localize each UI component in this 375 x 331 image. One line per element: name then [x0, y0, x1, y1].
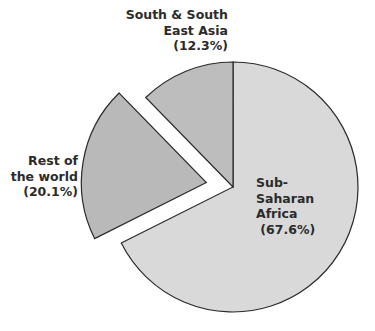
- label-line: Saharan: [256, 191, 314, 206]
- label-line: East Asia: [163, 23, 228, 38]
- pie-slices: [81, 62, 358, 312]
- label-line: Sub-: [256, 175, 288, 190]
- label-line: the world: [11, 169, 78, 184]
- label-line: Rest of: [28, 153, 78, 168]
- label-line: Africa: [256, 206, 297, 221]
- label-south-and-south-east-asia: South & SouthEast Asia(12.3%): [126, 7, 228, 53]
- label-line: South & South: [126, 7, 228, 22]
- label-rest-of-the-world: Rest ofthe world(20.1%): [11, 153, 79, 199]
- pie-chart: Sub-SaharanAfrica (67.6%) Rest ofthe wor…: [0, 0, 375, 331]
- label-line: (12.3%): [173, 38, 228, 53]
- label-line: (67.6%): [256, 222, 315, 237]
- label-line: (20.1%): [23, 184, 78, 199]
